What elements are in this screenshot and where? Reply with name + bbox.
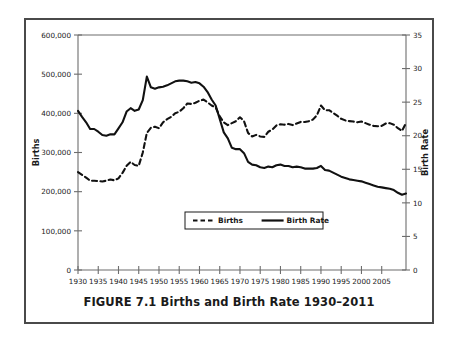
y2-tick-label: 5 — [413, 232, 418, 241]
y-tick-label: 200,000 — [41, 187, 71, 196]
legend-label-birth-rate: Birth Rate — [287, 216, 329, 225]
y-tick-label: 100,000 — [41, 227, 71, 236]
y2-tick-label: 35 — [413, 31, 422, 40]
births-birth-rate-line-chart: 0100,000200,000300,000400,000500,000600,… — [26, 20, 436, 288]
figure-caption-text: FIGURE 7.1 Births and Birth Rate 1930–20… — [83, 295, 374, 309]
y2-tick-label: 25 — [413, 98, 422, 107]
figure-frame: 0100,000200,000300,000400,000500,000600,… — [24, 18, 434, 324]
y2-tick-label: 30 — [413, 64, 423, 73]
y-tick-label: 600,000 — [41, 31, 71, 40]
figure-caption-bar: FIGURE 7.1 Births and Birth Rate 1930–20… — [26, 282, 432, 322]
chart-plot-area: 0100,000200,000300,000400,000500,000600,… — [26, 20, 436, 288]
y2-tick-label: 0 — [413, 266, 418, 275]
y-axis-title: Births — [31, 139, 41, 167]
y-tick-label: 300,000 — [41, 148, 71, 157]
y-tick-label: 500,000 — [41, 70, 71, 79]
left-axis-ticks: 0100,000200,000300,000400,000500,000600,… — [41, 31, 82, 275]
y-tick-label: 400,000 — [41, 109, 71, 118]
y-tick-label: 0 — [66, 266, 71, 275]
y2-axis-title: Birth Rate — [420, 129, 430, 176]
y2-tick-label: 10 — [413, 199, 423, 208]
data-series-group — [78, 77, 406, 195]
chart-legend: BirthsBirth Rate — [185, 212, 329, 229]
legend-label-births: Births — [218, 216, 244, 225]
series-line-birth-rate — [78, 77, 406, 195]
